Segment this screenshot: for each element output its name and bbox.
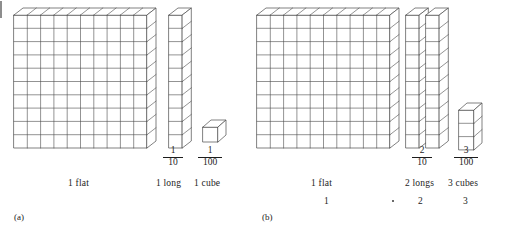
fraction-numerator: 1 xyxy=(206,146,215,156)
fraction-numerator: 2 xyxy=(418,146,427,156)
label-a-long: 1 long xyxy=(156,178,181,188)
panel-tag-b: (b) xyxy=(262,212,273,222)
fraction-denominator: 10 xyxy=(416,158,428,168)
fraction-denominator: 10 xyxy=(167,158,179,168)
value-b-cubes: 3 xyxy=(463,196,468,206)
label-a-cube: 1 cube xyxy=(194,178,220,188)
panel-tag-a: (a) xyxy=(14,212,24,222)
value-b-longs: 2 xyxy=(418,196,423,206)
label-b-flat: 1 flat xyxy=(311,178,332,188)
fraction-one-hundredth: 1 100 xyxy=(198,146,222,168)
fraction-one-tenth: 1 10 xyxy=(163,146,183,168)
fraction-denominator: 100 xyxy=(458,158,474,168)
fraction-denominator: 100 xyxy=(202,158,218,168)
stray-dot-artifact xyxy=(392,200,394,202)
left-edge-scan-artifact xyxy=(0,1,2,18)
blocks-svg xyxy=(0,0,506,240)
fraction-two-tenths: 2 10 xyxy=(412,146,432,168)
label-a-flat: 1 flat xyxy=(68,178,89,188)
label-b-longs: 2 longs xyxy=(405,178,434,188)
value-b-flat: 1 xyxy=(324,196,329,206)
fraction-three-hundredths: 3 100 xyxy=(454,146,478,168)
base-ten-blocks-figure: 1 10 1 100 1 flat 1 long 1 cube (a) 2 10… xyxy=(0,0,506,240)
label-b-cubes: 3 cubes xyxy=(448,178,478,188)
fraction-numerator: 3 xyxy=(462,146,471,156)
fraction-numerator: 1 xyxy=(169,146,178,156)
